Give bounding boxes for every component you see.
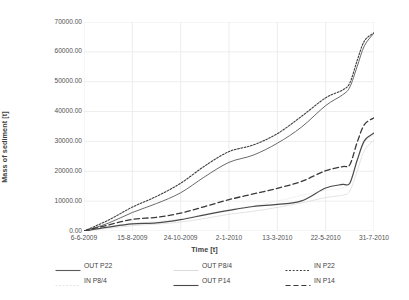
x-axis-tick-label: 2-1-2010 — [216, 234, 242, 241]
y-axis-tick-label: 20000.00 — [4, 167, 82, 174]
x-axis-tick-label: 13-3-2010 — [262, 234, 292, 241]
plot-svg — [84, 22, 374, 231]
legend-label: IN P8/4 — [84, 277, 107, 284]
legend-label: OUT P14 — [202, 277, 230, 284]
legend-item[interactable]: IN P14 — [285, 273, 335, 288]
legend-swatch-in-p8-4 — [55, 276, 81, 285]
chart-legend: OUT P22OUT P8/4IN P22 IN P8/4OUT P14IN P… — [55, 258, 375, 292]
x-axis-tick-label: 6-6-2009 — [71, 234, 97, 241]
legend-swatch-out-p14 — [173, 276, 199, 285]
legend-item[interactable]: IN P8/4 — [55, 273, 107, 288]
legend-label: IN P22 — [314, 262, 335, 269]
x-axis-tick-label: 24-10-2009 — [164, 234, 198, 241]
legend-label: IN P14 — [314, 277, 335, 284]
y-axis-tick-label: 70000.00 — [4, 18, 82, 25]
legend-swatch-in-p22 — [285, 261, 311, 270]
y-axis-tick-label: 60000.00 — [4, 47, 82, 54]
legend-row: IN P8/4OUT P14IN P14 — [55, 273, 375, 288]
y-axis-tick-label: 0.00 — [4, 227, 82, 234]
plot-area — [84, 22, 374, 231]
x-axis-tick-label: 15-8-2009 — [117, 234, 147, 241]
legend-row: OUT P22OUT P8/4IN P22 — [55, 258, 375, 273]
y-axis-tick-label: 10000.00 — [4, 197, 82, 204]
legend-item[interactable]: OUT P22 — [55, 258, 112, 273]
legend-label: OUT P8/4 — [202, 262, 232, 269]
y-axis-tick-label: 50000.00 — [4, 77, 82, 84]
legend-item[interactable]: IN P22 — [285, 258, 335, 273]
legend-item[interactable]: OUT P8/4 — [173, 258, 232, 273]
chart-container: Mass of sediment [t] 70000.0060000.00500… — [0, 0, 409, 300]
legend-swatch-out-p22 — [55, 261, 81, 270]
y-axis-tick-labels: 70000.0060000.0050000.0040000.0030000.00… — [0, 0, 82, 300]
y-axis-tick-label: 40000.00 — [4, 107, 82, 114]
legend-swatch-out-p8-4 — [173, 261, 199, 270]
legend-item[interactable]: OUT P14 — [173, 273, 230, 288]
legend-swatch-in-p14 — [285, 276, 311, 285]
legend-label: OUT P22 — [84, 262, 112, 269]
x-axis-title: Time [t] — [0, 245, 409, 254]
x-axis-tick-label: 31-7-2010 — [359, 234, 389, 241]
x-axis-tick-label: 22-5-2010 — [311, 234, 341, 241]
y-axis-tick-label: 30000.00 — [4, 137, 82, 144]
